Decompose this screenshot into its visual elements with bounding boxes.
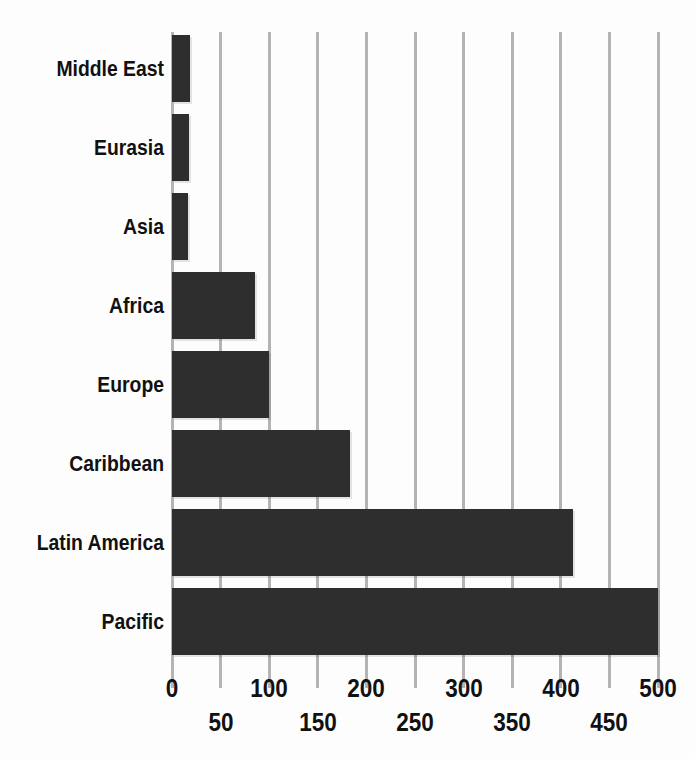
- bar[interactable]: [172, 114, 189, 181]
- category-axis-labels: Middle EastEurasiaAsiaAfricaEuropeCaribb…: [0, 32, 164, 662]
- tick-label-0: 0: [166, 676, 179, 701]
- tick-label-400: 400: [542, 676, 580, 701]
- category-label: Europe: [21, 374, 164, 396]
- gridline-450: [608, 32, 611, 662]
- category-label: Caribbean: [21, 453, 164, 475]
- bar[interactable]: [172, 430, 350, 497]
- tick-label-450: 450: [591, 710, 629, 735]
- tick-label-100: 100: [250, 676, 288, 701]
- tick-label-300: 300: [445, 676, 483, 701]
- bar[interactable]: [172, 351, 269, 418]
- chart-title: [0, 0, 695, 6]
- tick-label-500: 500: [639, 676, 677, 701]
- tick-label-50: 50: [208, 710, 233, 735]
- bar-chart: Middle EastEurasiaAsiaAfricaEuropeCaribb…: [0, 0, 695, 759]
- bar[interactable]: [172, 509, 573, 576]
- tick-label-250: 250: [396, 710, 434, 735]
- x-axis-tick-labels: 050100150200250300350400450500: [0, 662, 695, 759]
- tick-label-150: 150: [299, 710, 337, 735]
- bar[interactable]: [172, 193, 188, 260]
- bar[interactable]: [172, 588, 658, 655]
- category-label: Middle East: [21, 58, 164, 80]
- category-label: Pacific: [21, 611, 164, 633]
- plot-area: [172, 32, 658, 662]
- tick-label-200: 200: [348, 676, 386, 701]
- tick-label-350: 350: [493, 710, 531, 735]
- category-label: Africa: [21, 295, 164, 317]
- gridline-500: [657, 32, 660, 662]
- category-label: Eurasia: [21, 137, 164, 159]
- bar[interactable]: [172, 35, 190, 102]
- category-label: Latin America: [21, 532, 164, 554]
- bar[interactable]: [172, 272, 255, 339]
- category-label: Asia: [21, 216, 164, 238]
